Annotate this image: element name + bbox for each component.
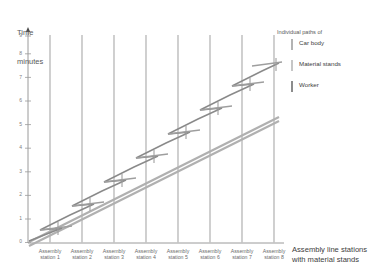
x-tick-label-station-8: Assembly station 8 bbox=[258, 248, 290, 261]
process-diagram: Time minutes 9 8 7 6 5 4 3 2 1 0 Assembl… bbox=[0, 0, 382, 275]
x-tick-label-station-7: Assembly station 7 bbox=[226, 248, 258, 261]
x-label-line2: station 1 bbox=[34, 254, 66, 260]
x-label-line2: station 7 bbox=[226, 254, 258, 260]
legend-title: Individual paths of bbox=[277, 29, 322, 35]
y-tick-label: 3 bbox=[12, 168, 22, 174]
x-axis-title-line1: Assembly line stations bbox=[292, 245, 367, 255]
y-tick-label: 5 bbox=[12, 121, 22, 127]
y-tick-label: 6 bbox=[12, 97, 22, 103]
legend-label-car-body: Car body bbox=[299, 39, 324, 46]
x-tick-label-station-6: Assembly station 6 bbox=[194, 248, 226, 261]
x-tick-label-station-5: Assembly station 5 bbox=[162, 248, 194, 261]
legend-label-material-stands: Material stands bbox=[299, 60, 341, 67]
x-tick-label-station-1: Assembly station 1 bbox=[34, 248, 66, 261]
x-label-line2: station 5 bbox=[162, 254, 194, 260]
y-tick-label: 9 bbox=[12, 32, 22, 38]
chart-canvas bbox=[0, 0, 382, 275]
x-label-line2: station 4 bbox=[130, 254, 162, 260]
x-axis-title-line2: with material stands bbox=[292, 255, 367, 265]
y-tick-label: 1 bbox=[12, 215, 22, 221]
legend-label-worker: Worker bbox=[299, 81, 319, 88]
x-label-line2: station 3 bbox=[98, 254, 130, 260]
x-tick-label-station-2: Assembly station 2 bbox=[66, 248, 98, 261]
x-axis-title: Assembly line stations with material sta… bbox=[292, 245, 367, 264]
y-tick-label: 0 bbox=[12, 238, 22, 244]
x-label-line2: station 6 bbox=[194, 254, 226, 260]
y-axis-title-line2: minutes bbox=[17, 57, 43, 67]
y-tick-label: 2 bbox=[12, 191, 22, 197]
y-tick-label: 4 bbox=[12, 144, 22, 150]
x-tick-label-station-3: Assembly station 3 bbox=[98, 248, 130, 261]
material-stand-lines bbox=[50, 35, 274, 243]
y-tick-label: 7 bbox=[12, 74, 22, 80]
x-tick-label-station-4: Assembly station 4 bbox=[130, 248, 162, 261]
y-tick-label: 8 bbox=[12, 50, 22, 56]
x-label-line2: station 2 bbox=[66, 254, 98, 260]
x-label-line2: station 8 bbox=[258, 254, 290, 260]
